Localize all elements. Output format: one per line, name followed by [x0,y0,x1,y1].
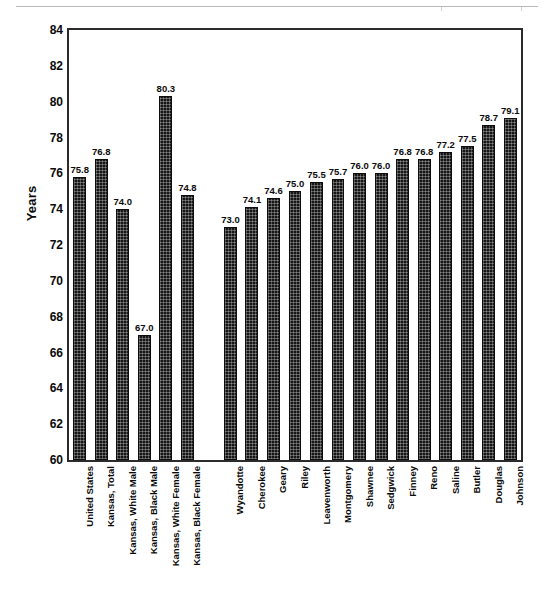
bar-slot: 75.0 [289,30,302,460]
y-axis-tick-72: 72 [29,238,63,252]
x-label-slot: Shawnee [349,466,371,596]
bar-value-label: 74.6 [264,185,283,196]
y-axis-tick-82: 82 [29,59,63,73]
bar[interactable] [418,159,431,460]
x-label-slot: Butler [456,466,478,596]
bar-slot: 74.1 [245,30,258,460]
bar[interactable] [396,159,409,460]
y-axis-tick-64: 64 [29,381,63,395]
bar[interactable] [332,179,345,460]
bar-value-label: 75.5 [307,169,326,180]
bar-slot: 75.5 [310,30,323,460]
x-label-slot: Sedgwick [370,466,392,596]
bar-value-label: 76.0 [350,160,369,171]
bar-value-label: 76.8 [92,146,111,157]
bar[interactable] [95,159,108,460]
bar-slot: 76.8 [95,30,108,460]
x-label-slot: Wyandotte [220,466,242,596]
x-label-slot: Saline [435,466,457,596]
x-label-slot: Kansas, Total [91,466,113,596]
x-label-slot: Riley [284,466,306,596]
bar-value-label: 67.0 [135,322,154,333]
bar-slot: 77.2 [439,30,452,460]
bar-slot: 77.5 [461,30,474,460]
y-axis-tick-80: 80 [29,95,63,109]
bar-slot: 76.0 [375,30,388,460]
y-axis-tick-60: 60 [29,453,63,467]
bar[interactable] [375,173,388,460]
x-label-slot: Kansas, White Female [155,466,177,596]
bar[interactable] [138,335,151,460]
bar-value-label: 75.8 [71,164,90,175]
bar[interactable] [73,177,86,460]
bar-slot: 76.0 [353,30,366,460]
y-axis-tick-76: 76 [29,166,63,180]
y-axis-tick-74: 74 [29,202,63,216]
x-axis-category-labels: United StatesKansas, TotalKansas, White … [69,466,521,596]
bar-value-label: 77.5 [458,133,477,144]
x-axis-label: Johnson [515,466,525,506]
bar-slot: 75.7 [332,30,345,460]
bar-slot: 79.1 [504,30,517,460]
bar-slot: 74.8 [181,30,194,460]
x-label-slot: Kansas, Black Male [134,466,156,596]
y-axis-tick-62: 62 [29,417,63,431]
bar-value-label: 76.0 [372,160,391,171]
bar-value-label: 79.1 [501,105,520,116]
bar[interactable] [245,207,258,460]
bar[interactable] [482,125,495,460]
x-label-slot: Cherokee [241,466,263,596]
y-axis-tick-labels: 84828078767472706866646260 [25,28,63,462]
bars-layer: 75.876.874.067.080.374.873.074.174.675.0… [69,30,521,460]
bar-value-label: 74.8 [178,182,197,193]
bar-value-label: 80.3 [157,83,176,94]
y-axis-tick-84: 84 [29,23,63,37]
bar-value-label: 74.1 [243,194,262,205]
bar[interactable] [439,152,452,460]
bar-slot: 74.6 [267,30,280,460]
life-expectancy-bar-chart: Years 84828078767472706866646260 75.876.… [0,0,554,610]
bar[interactable] [224,227,237,460]
x-label-slot: Kansas, Black Female [177,466,199,596]
bar-slot: 80.3 [159,30,172,460]
bar-slot: 67.0 [138,30,151,460]
x-label-slot: Finney [392,466,414,596]
bar-value-label: 73.0 [221,214,240,225]
y-axis-tick-70: 70 [29,274,63,288]
bar-slot: 74.0 [116,30,129,460]
x-label-slot: Johnson [499,466,521,596]
bar[interactable] [310,182,323,460]
bar-value-label: 78.7 [479,112,498,123]
bar[interactable] [267,198,280,460]
bar[interactable] [289,191,302,460]
x-label-slot: Kansas, White Male [112,466,134,596]
y-axis-tick-78: 78 [29,131,63,145]
bar-slot: 73.0 [224,30,237,460]
x-label-slot: Douglas [478,466,500,596]
chart-page: Years 84828078767472706866646260 75.876.… [0,0,554,610]
x-label-slot: Montgomery [327,466,349,596]
bar[interactable] [159,96,172,460]
bar[interactable] [181,195,194,460]
y-axis-tick-66: 66 [29,346,63,360]
bar-value-label: 77.2 [436,139,455,150]
bar-slot: 76.8 [396,30,409,460]
bar[interactable] [116,209,129,460]
bar[interactable] [461,146,474,460]
bar[interactable] [504,118,517,460]
bar-value-label: 75.0 [286,178,305,189]
bar-value-label: 76.8 [415,146,434,157]
y-axis-tick-68: 68 [29,310,63,324]
x-label-slot: Geary [263,466,285,596]
bar-value-label: 76.8 [393,146,412,157]
bar-slot: 75.8 [73,30,86,460]
x-label-slot: Reno [413,466,435,596]
x-label-slot: Leavenworth [306,466,328,596]
bar-value-label: 74.0 [114,196,133,207]
x-axis-label: Kansas, Black Female [192,466,202,566]
bar-slot: 78.7 [482,30,495,460]
x-label-slot: United States [69,466,91,596]
bar-slot: 76.8 [418,30,431,460]
bar[interactable] [353,173,366,460]
bar-value-label: 75.7 [329,166,348,177]
